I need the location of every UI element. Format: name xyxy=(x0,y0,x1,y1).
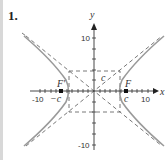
y-tick-neg10: -10 xyxy=(78,141,90,150)
c-diagonal-label: c xyxy=(101,72,106,83)
focus-left-label: F' xyxy=(56,78,66,89)
axes xyxy=(30,28,155,150)
c-label: c xyxy=(124,93,129,104)
focus-right-label: F xyxy=(124,78,132,89)
x-axis-label: x xyxy=(159,86,165,97)
x-tick-neg10: -10 xyxy=(32,95,44,104)
neg-c-label: −c xyxy=(50,93,62,104)
y-axis-label: y xyxy=(89,9,95,20)
hyperbola-diagram: y x 10 -10 -10 10 F' F −c c c xyxy=(0,0,167,160)
y-axis-arrow-icon xyxy=(91,23,97,30)
x-axis-arrow-icon xyxy=(153,88,159,94)
x-tick-10: 10 xyxy=(141,95,150,104)
y-tick-10: 10 xyxy=(81,34,90,43)
